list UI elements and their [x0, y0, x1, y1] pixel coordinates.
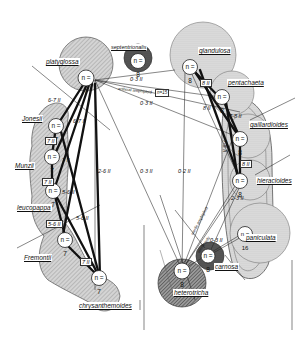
edge-label: 2-6 II: [98, 168, 111, 174]
edge-label: 0·3 II: [130, 76, 143, 82]
glandulosa-chromosome: n = 8: [183, 60, 197, 74]
edge-label: 5-6 II: [46, 220, 63, 228]
edge-label: 6-7 II: [73, 118, 86, 124]
edge-label: 7 II: [80, 258, 92, 266]
hieracioides-chromosome: n = 8: [233, 174, 247, 188]
edge-label: 7 II: [62, 157, 70, 163]
edge-label: 8 II: [240, 160, 252, 168]
label-chrysanthemoides: chrysanthemoides: [78, 302, 133, 309]
label-hieracioides: hieracioides: [256, 177, 293, 184]
edge-label: 5-6 II: [62, 189, 75, 195]
jonesii-chromosome: n = 7: [49, 119, 63, 133]
label-heterotricha: heterotricha: [173, 289, 209, 296]
heterotricha-chromosome: n = 8: [175, 264, 189, 278]
label-fremontii: Fremontii: [23, 254, 52, 261]
edge-label: 0·3 II: [140, 168, 153, 174]
diagram-canvas: n = 7 n = 8 n = 8 n = 8 n = 8 n = 8 n = …: [0, 0, 303, 339]
carnosa-chromosome: n = 8: [201, 249, 215, 263]
label-pentachaeta: pentachaeta: [227, 79, 265, 86]
label-carnosa: carnosa: [214, 263, 239, 270]
edge-label: 0-3 II: [210, 237, 223, 243]
label-paniculata: paniculata: [245, 234, 277, 241]
edge-label: 6-7 II: [48, 97, 61, 103]
edge-label: 7-8 II: [222, 140, 228, 153]
edge-label: 8 II: [200, 79, 212, 87]
munzii-chromosome: n = 7: [45, 150, 59, 164]
label-munzii: Munzii: [14, 162, 35, 169]
leucopappa-chromosome: n = 7: [46, 184, 60, 198]
label-leucopappa: leucopappa: [16, 204, 52, 211]
edge-label-n15: n=15: [155, 89, 169, 97]
fremontii-chromosome: n = 7: [58, 233, 72, 247]
edge-label: 7-8 II: [229, 113, 242, 119]
label-septentrionalis: septentrionalis: [110, 44, 147, 51]
edge-label: 2-3 II: [231, 195, 244, 201]
label-platyglossa: platyglossa: [45, 58, 80, 65]
pentachaeta-chromosome: n = 8: [215, 90, 229, 104]
gaillardioides-chromosome: n = 8: [233, 132, 247, 146]
edge-label: 7 II: [42, 178, 54, 186]
label-glandulosa: glandulosa: [198, 47, 231, 54]
label-gaillardioides: gaillardioides: [249, 121, 289, 128]
septentrionalis-chromosome: n = 8: [131, 54, 145, 68]
chrysanthemoides-chromosome: n = 7: [92, 271, 106, 285]
label-jonesii: Jonesii: [21, 115, 43, 122]
edge-label: 7 II: [45, 137, 57, 145]
edge-label: 0·3 II: [140, 100, 153, 106]
edge-label: 0·2 II: [178, 168, 191, 174]
platyglossa-chromosome: n = 7: [79, 71, 93, 85]
edge-label: 5-6 II: [76, 215, 89, 221]
edge-label: 8 II: [203, 105, 211, 111]
